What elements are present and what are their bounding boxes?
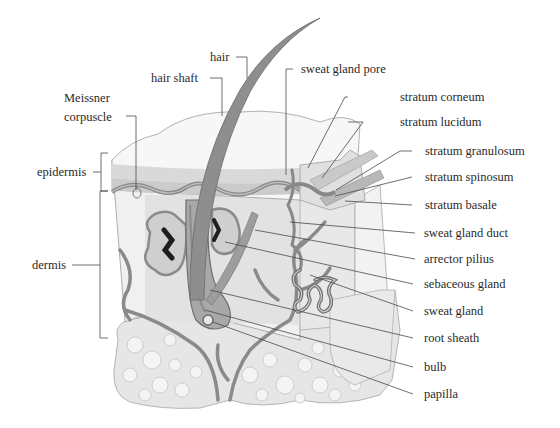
label-sweat-gland: sweat gland <box>424 304 483 318</box>
label-sebaceous-gland: sebaceous gland <box>424 277 506 291</box>
label-bulb: bulb <box>424 360 446 374</box>
label-arrector-pilius: arrector pilius <box>424 252 494 266</box>
label-stratum-lucidum: stratum lucidum <box>400 115 482 129</box>
label-epidermis: epidermis <box>37 165 86 179</box>
label-stratum-basale: stratum basale <box>425 198 497 212</box>
label-stratum-granulosum: stratum granulosum <box>425 144 525 158</box>
label-hair: hair <box>210 50 229 64</box>
label-sweat-gland-pore: sweat gland pore <box>301 62 386 76</box>
label-dermis: dermis <box>32 258 66 272</box>
label-sweat-gland-duct: sweat gland duct <box>424 226 508 240</box>
label-hair-shaft: hair shaft <box>151 71 198 85</box>
label-stratum-spinosum: stratum spinosum <box>425 170 514 184</box>
label-papilla: papilla <box>424 387 458 401</box>
skin-diagram <box>0 0 560 428</box>
label-stratum-corneum: stratum corneum <box>400 90 484 104</box>
label-root-sheath: root sheath <box>424 331 479 345</box>
label-meissner-line1: Meissner <box>64 91 110 105</box>
label-meissner-line2: corpuscle <box>64 110 112 124</box>
